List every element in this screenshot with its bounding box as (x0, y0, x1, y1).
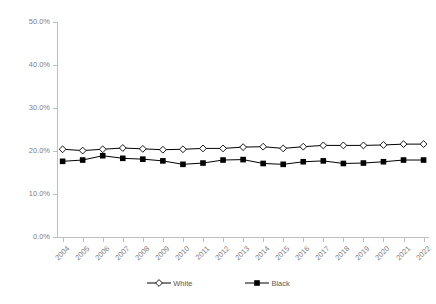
y-tick-mark (53, 237, 57, 238)
data-point-filled-square (321, 158, 327, 164)
x-tick-label: 2006 (88, 244, 111, 267)
data-point-open-diamond (59, 146, 66, 153)
x-tick-label: 2021 (389, 244, 412, 267)
data-point-open-diamond (240, 144, 247, 151)
x-tick-label: 2004 (48, 244, 71, 267)
x-tick-label: 2007 (108, 244, 131, 267)
data-point-filled-square (180, 162, 186, 168)
data-point-open-diamond (420, 141, 427, 148)
y-tick-label: 40.0% (4, 61, 50, 69)
x-tick-mark (103, 238, 104, 242)
plot-area (57, 22, 429, 237)
data-point-open-diamond (320, 142, 327, 149)
x-tick-label: 2009 (148, 244, 171, 267)
legend-marker-open-diamond-icon (146, 278, 172, 288)
data-point-open-diamond (360, 142, 367, 149)
data-point-open-diamond (139, 145, 146, 152)
x-tick-mark (383, 238, 384, 242)
y-axis-labels: 0.0%10.0%20.0%30.0%40.0%50.0% (0, 0, 50, 304)
data-point-filled-square (80, 157, 86, 163)
legend-item-white[interactable]: White (146, 278, 192, 288)
legend-label-black: Black (271, 279, 289, 288)
data-point-filled-square (280, 162, 286, 168)
data-point-filled-square (300, 159, 306, 165)
data-point-filled-square (100, 153, 106, 159)
x-tick-mark (263, 238, 264, 242)
data-point-open-diamond (280, 145, 287, 152)
data-point-filled-square (260, 161, 266, 167)
y-tick-label: 0.0% (4, 233, 50, 241)
x-tick-mark (243, 238, 244, 242)
x-tick-label: 2020 (368, 244, 391, 267)
data-point-filled-square (160, 158, 166, 164)
x-tick-label: 2013 (228, 244, 251, 267)
y-tick-label: 30.0% (4, 104, 50, 112)
x-tick-mark (183, 238, 184, 242)
y-tick-label: 50.0% (4, 18, 50, 26)
data-point-open-diamond (79, 147, 86, 154)
data-point-filled-square (140, 156, 146, 162)
x-tick-mark (303, 238, 304, 242)
line-chart: 0.0%10.0%20.0%30.0%40.0%50.0% 2004200520… (0, 0, 436, 304)
x-tick-label: 2008 (128, 244, 151, 267)
x-tick-label: 2018 (328, 244, 351, 267)
legend-item-black[interactable]: Black (244, 278, 289, 288)
data-point-open-diamond (159, 146, 166, 153)
x-tick-mark (404, 238, 405, 242)
y-tick-mark (53, 108, 57, 109)
data-point-filled-square (341, 161, 347, 167)
legend-label-white: White (173, 279, 192, 288)
data-point-open-diamond (400, 141, 407, 148)
series-black (60, 153, 427, 167)
y-tick-mark (53, 22, 57, 23)
x-tick-label: 2014 (248, 244, 271, 267)
y-tick-mark (53, 65, 57, 66)
x-tick-mark (63, 238, 64, 242)
x-tick-mark (283, 238, 284, 242)
data-point-filled-square (220, 157, 226, 163)
data-point-open-diamond (340, 142, 347, 149)
x-tick-mark (424, 238, 425, 242)
y-tick-label: 10.0% (4, 190, 50, 198)
data-point-filled-square (421, 157, 427, 163)
x-tick-label: 2010 (168, 244, 191, 267)
data-point-filled-square (200, 160, 206, 166)
x-tick-mark (83, 238, 84, 242)
data-point-open-diamond (200, 145, 207, 152)
data-point-filled-square (401, 157, 407, 163)
x-tick-mark (323, 238, 324, 242)
data-point-open-diamond (300, 143, 307, 150)
x-tick-mark (123, 238, 124, 242)
series-canvas (57, 22, 429, 237)
x-tick-label: 2016 (288, 244, 311, 267)
x-tick-label: 2005 (68, 244, 91, 267)
x-tick-mark (343, 238, 344, 242)
x-tick-mark (143, 238, 144, 242)
data-point-open-diamond (380, 142, 387, 149)
data-point-open-diamond (119, 145, 126, 152)
x-tick-mark (163, 238, 164, 242)
data-point-open-diamond (180, 146, 187, 153)
x-tick-mark (223, 238, 224, 242)
x-tick-mark (203, 238, 204, 242)
series-white (59, 141, 427, 154)
chart-legend: White Black (0, 275, 436, 291)
data-point-open-diamond (99, 146, 106, 153)
y-tick-mark (53, 151, 57, 152)
data-point-open-diamond (220, 145, 227, 152)
data-point-filled-square (240, 157, 246, 163)
x-tick-label: 2017 (308, 244, 331, 267)
y-tick-mark (53, 194, 57, 195)
x-tick-label: 2019 (348, 244, 371, 267)
x-tick-mark (363, 238, 364, 242)
y-tick-label: 20.0% (4, 147, 50, 155)
x-tick-label: 2012 (208, 244, 231, 267)
data-point-filled-square (60, 159, 66, 165)
x-tick-label: 2022 (409, 244, 432, 267)
legend-marker-filled-square-icon (244, 278, 270, 288)
data-point-filled-square (381, 159, 387, 165)
data-point-filled-square (361, 160, 367, 166)
x-tick-label: 2015 (268, 244, 291, 267)
x-tick-label: 2011 (188, 244, 211, 267)
data-point-filled-square (120, 156, 126, 162)
